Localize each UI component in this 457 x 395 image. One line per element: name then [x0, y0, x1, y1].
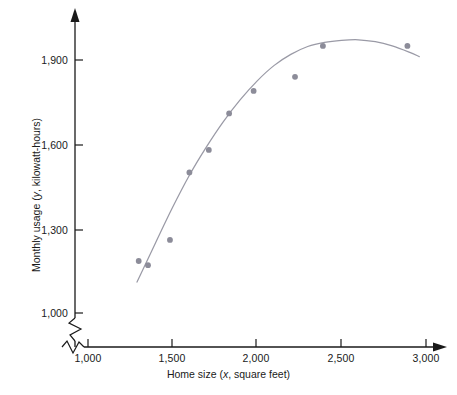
- data-point: [136, 258, 142, 264]
- scatter-plot-canvas: [0, 0, 457, 395]
- y-axis-title: Monthly usage (y, kilowatt-hours): [30, 118, 42, 272]
- fit-curve: [137, 40, 419, 282]
- data-point: [167, 237, 173, 243]
- data-point: [226, 111, 232, 117]
- data-point: [206, 147, 212, 153]
- ytick-label-1300: 1,300: [18, 224, 68, 236]
- y-axis-title-suffix: , kilowatt-hours): [30, 118, 42, 192]
- xtick-label-1500: 1,500: [147, 352, 197, 364]
- x-axis-title: Home size (x, square feet): [0, 368, 457, 380]
- data-point: [187, 170, 193, 176]
- data-point: [405, 43, 411, 49]
- ytick-label-1600: 1,600: [18, 139, 68, 151]
- y-axis-break-icon: [69, 318, 81, 341]
- x-axis-ticks: [88, 339, 426, 347]
- data-point: [145, 262, 151, 268]
- y-axis: [69, 8, 81, 347]
- data-point: [292, 74, 298, 80]
- xtick-label-3000: 3,000: [401, 352, 451, 364]
- xtick-label-2500: 2,500: [316, 352, 366, 364]
- ytick-label-1900: 1,900: [18, 54, 68, 66]
- y-axis-title-variable: y: [30, 192, 42, 197]
- data-point: [251, 88, 257, 94]
- chart-figure: 1,900 1,600 1,300 1,000 1,000 1,500 2,00…: [0, 0, 457, 395]
- ytick-label-1000: 1,000: [18, 307, 68, 319]
- x-axis-title-prefix: Home size (: [167, 368, 223, 380]
- xtick-label-2000: 2,000: [231, 352, 281, 364]
- y-axis-title-prefix: Monthly usage (: [30, 197, 42, 272]
- xtick-label-1000: 1,000: [63, 352, 113, 364]
- data-point: [320, 43, 326, 49]
- data-points-group: [136, 43, 411, 268]
- x-axis-title-suffix: , square feet): [228, 368, 290, 380]
- y-axis-ticks: [75, 60, 83, 313]
